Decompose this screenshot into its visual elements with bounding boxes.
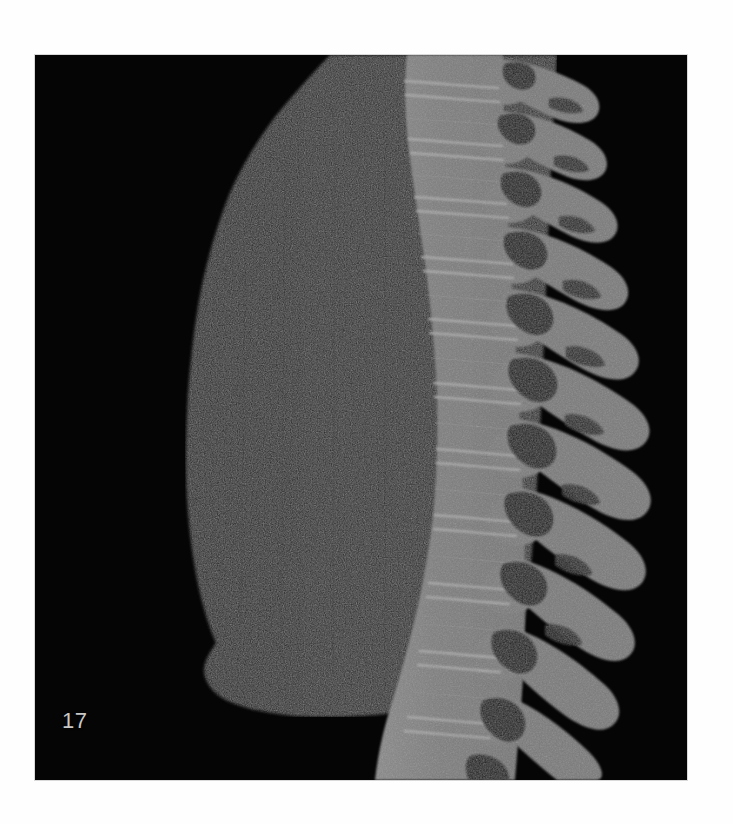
ct-scan-image xyxy=(35,55,687,780)
ct-image-page: 17 xyxy=(0,0,733,824)
ct-grain-overlay xyxy=(35,55,687,780)
ct-scan-viewport[interactable]: 17 xyxy=(35,55,687,780)
slice-number-label: 17 xyxy=(62,710,87,732)
